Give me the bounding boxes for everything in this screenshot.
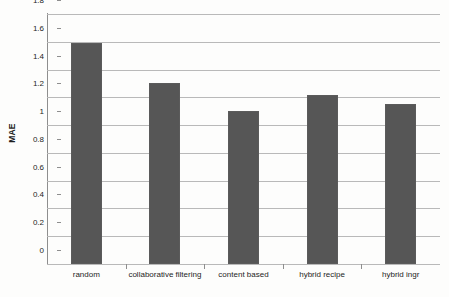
y-axis-tick-label: 1: [18, 107, 44, 116]
y-axis-tick-mark: [57, 0, 61, 1]
plot-area: [47, 14, 440, 264]
bar: [71, 43, 102, 264]
x-axis-tick-mark: [126, 264, 127, 269]
y-axis-tick-label: 0.4: [18, 190, 44, 199]
bar: [228, 111, 259, 264]
gridline: [47, 14, 440, 15]
gridline: [47, 97, 440, 98]
gridline: [47, 42, 440, 43]
y-axis-tick-label: 1.2: [18, 79, 44, 88]
x-axis-tick-mark: [361, 264, 362, 269]
y-axis-tick-label: 0: [18, 246, 44, 255]
x-axis-tick-label: content based: [218, 270, 268, 279]
x-axis-tick-label: collaborative filtering: [128, 270, 201, 279]
y-axis-tick-label: 1.6: [18, 23, 44, 32]
bar: [307, 95, 338, 264]
y-axis-tick-label: 1.4: [18, 51, 44, 60]
y-axis-tick-label: 0.6: [18, 162, 44, 171]
y-axis-tick-labels: 00.20.40.60.811.21.41.61.8: [14, 0, 44, 250]
bar-chart: MAE 00.20.40.60.811.21.41.61.8 randomcol…: [0, 0, 449, 297]
x-axis-tick-mark: [283, 264, 284, 269]
gridline: [47, 70, 440, 71]
x-axis-tick-mark: [204, 264, 205, 269]
bar: [149, 83, 180, 264]
bar: [385, 104, 416, 264]
y-axis-tick-label: 0.2: [18, 218, 44, 227]
x-axis-tick-label: random: [73, 270, 100, 279]
gridline: [47, 264, 440, 265]
y-axis-tick-label: 1.8: [18, 0, 44, 5]
y-axis-tick-label: 0.8: [18, 134, 44, 143]
x-axis-tick-label: hybrid ingr: [382, 270, 419, 279]
x-axis-tick-label: hybrid recipe: [299, 270, 345, 279]
